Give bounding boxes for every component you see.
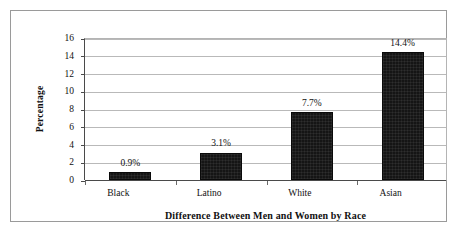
y-axis-tick	[81, 127, 85, 128]
y-axis-tick-label: 4	[44, 141, 74, 151]
bar-value-label-black: 0.9%	[100, 159, 160, 169]
x-axis-category-label-white: White	[260, 189, 340, 199]
y-axis-tick-label: 14	[44, 52, 74, 62]
x-axis-tick	[357, 181, 358, 185]
x-axis-category-label-asian: Asian	[351, 189, 431, 199]
plot-area: 02468101214160.9%3.1%7.7%14.4%	[84, 38, 447, 180]
y-axis-tick-label: 0	[44, 176, 74, 186]
x-axis-tick-origin	[85, 181, 86, 185]
bar-value-label-asian: 14.4%	[373, 39, 433, 49]
bar-value-label-latino: 3.1%	[191, 139, 251, 149]
y-axis-tick-label: 12	[44, 70, 74, 80]
y-axis-tick-label: 8	[44, 105, 74, 115]
bar-black	[109, 172, 151, 180]
x-axis-tick	[176, 181, 177, 185]
x-axis-tick	[267, 181, 268, 185]
y-axis-tick-label: 10	[44, 87, 74, 97]
y-axis-tick	[81, 92, 85, 93]
bar-latino	[200, 153, 242, 181]
y-axis-tick	[81, 74, 85, 75]
y-axis-tick	[81, 163, 85, 164]
y-axis-tick-label: 2	[44, 158, 74, 168]
chart-figure: Percentage 02468101214160.9%3.1%7.7%14.4…	[0, 0, 460, 234]
x-axis-category-label-black: Black	[78, 189, 158, 199]
bar-value-label-white: 7.7%	[282, 99, 342, 109]
bar-white	[291, 112, 333, 180]
x-axis-category-label-latino: Latino	[169, 189, 249, 199]
bar-asian	[382, 52, 424, 180]
y-axis-tick-label: 6	[44, 123, 74, 133]
y-axis-tick	[81, 39, 85, 40]
y-axis-tick	[81, 110, 85, 111]
y-axis-tick-label: 16	[44, 34, 74, 44]
y-axis-tick	[81, 145, 85, 146]
x-axis-title: Difference Between Men and Women by Race	[84, 210, 447, 221]
y-axis-tick	[81, 56, 85, 57]
chart-outer-frame: Percentage 02468101214160.9%3.1%7.7%14.4…	[10, 10, 447, 222]
